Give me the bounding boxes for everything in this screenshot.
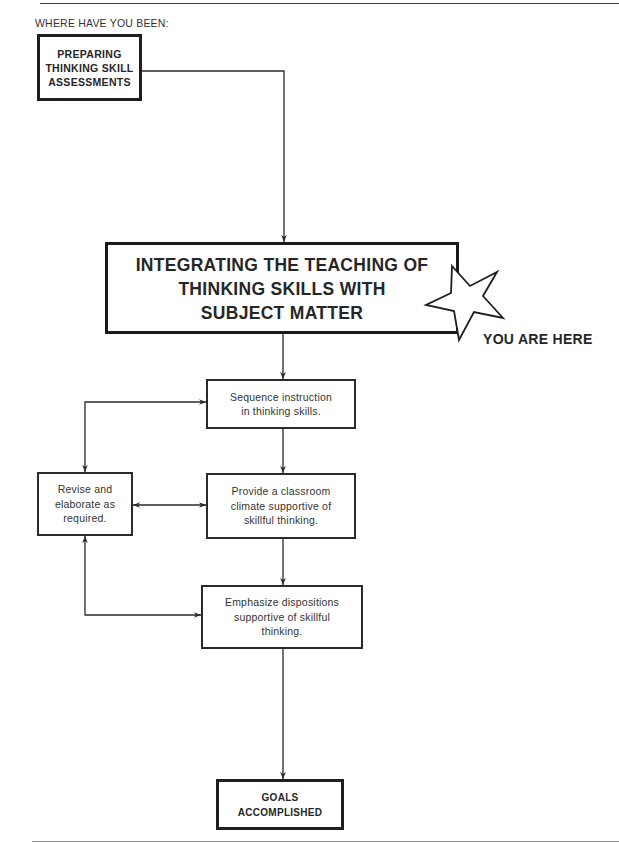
current-step-box: INTEGRATING THE TEACHING OF THINKING SKI… bbox=[105, 242, 459, 334]
you-are-here-label: YOU ARE HERE bbox=[483, 331, 593, 347]
step-label-sequence: Sequence instruction in thinking skills. bbox=[230, 390, 332, 419]
revise-box: Revise and elaborate as required. bbox=[37, 472, 133, 536]
previous-step-box: PREPARING THINKING SKILL ASSESSMENTS bbox=[37, 34, 142, 101]
goal-box: GOALS ACCOMPLISHED bbox=[216, 779, 344, 830]
goal-label: GOALS ACCOMPLISHED bbox=[238, 790, 323, 820]
step-label-emphasize: Emphasize dispositions supportive of ski… bbox=[225, 595, 339, 639]
connector-revise-emphasize bbox=[85, 536, 201, 615]
bottom-rule bbox=[32, 841, 619, 842]
previous-step-label: PREPARING THINKING SKILL ASSESSMENTS bbox=[45, 47, 133, 89]
connector-prep-to-main bbox=[142, 71, 284, 242]
step-label-provide: Provide a classroom climate supportive o… bbox=[231, 484, 332, 528]
current-step-label: INTEGRATING THE TEACHING OF THINKING SKI… bbox=[136, 251, 429, 325]
revise-label: Revise and elaborate as required. bbox=[55, 482, 115, 526]
step-box-emphasize: Emphasize dispositions supportive of ski… bbox=[201, 585, 363, 649]
step-box-provide: Provide a classroom climate supportive o… bbox=[206, 473, 356, 539]
step-box-sequence: Sequence instruction in thinking skills. bbox=[206, 379, 356, 429]
connector-revise-sequence bbox=[85, 402, 206, 472]
